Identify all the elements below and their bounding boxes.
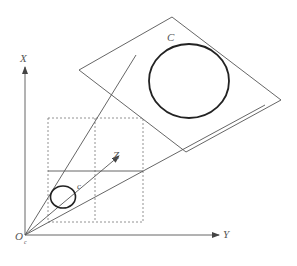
image-plane [48,118,143,222]
z-axis [25,156,119,235]
world-ellipse-label: C [167,31,175,43]
x-axis-label: X [19,52,28,64]
world-ellipse [149,44,229,118]
projection-ray-upper [25,55,136,235]
z-axis-label: Z [113,149,120,161]
origin-subscript-label: c [24,239,27,245]
camera-projection-diagram: X Y Z O c C c [0,0,297,266]
image-ellipse [51,186,76,208]
world-plane [79,17,281,152]
y-axis-label: Y [223,228,231,240]
origin-label: O [15,230,23,242]
image-ellipse-label: c [77,181,81,191]
projection-ray-lower [25,105,265,235]
